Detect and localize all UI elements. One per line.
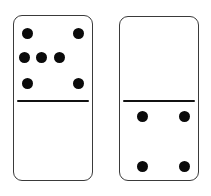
domino-right[interactable] (119, 16, 199, 181)
domino-right-divider-line (123, 100, 195, 102)
domino-right-bottom-pip-1 (137, 111, 148, 122)
domino-left-top-pip-2 (73, 28, 84, 39)
domino-right-top-half (120, 17, 198, 101)
domino-left-divider-line (17, 100, 89, 102)
domino-right-bottom-pip-4 (179, 161, 190, 172)
domino-left-bottom-half (14, 101, 92, 180)
domino-left-top-pip-4 (36, 52, 47, 63)
domino-left-top-pip-7 (73, 78, 84, 89)
domino-right-bottom-pip-2 (179, 111, 190, 122)
domino-left[interactable] (13, 15, 93, 181)
domino-left-top-pip-5 (54, 52, 65, 63)
domino-left-top-pip-6 (22, 78, 33, 89)
domino-right-bottom-pip-3 (137, 161, 148, 172)
domino-left-top-pip-3 (19, 52, 30, 63)
domino-left-top-pip-1 (22, 28, 33, 39)
domino-scene (0, 0, 211, 196)
